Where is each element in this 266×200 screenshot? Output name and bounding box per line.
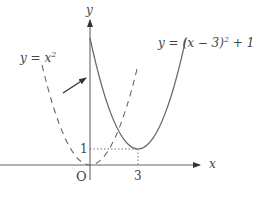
shifted-parabola-label: y = (x − 3)2 + 1	[158, 36, 254, 49]
x-tick-3: 3	[134, 170, 142, 182]
origin-label: O	[76, 170, 87, 183]
y-axis-label: y	[86, 4, 93, 16]
base-parabola-label: y = x2	[20, 51, 56, 64]
shifted-parabola-curve	[90, 38, 186, 149]
x-axis-label: x	[209, 158, 216, 170]
translation-arrow	[63, 78, 86, 93]
diagram-canvas	[0, 0, 266, 200]
y-tick-1: 1	[80, 143, 88, 155]
